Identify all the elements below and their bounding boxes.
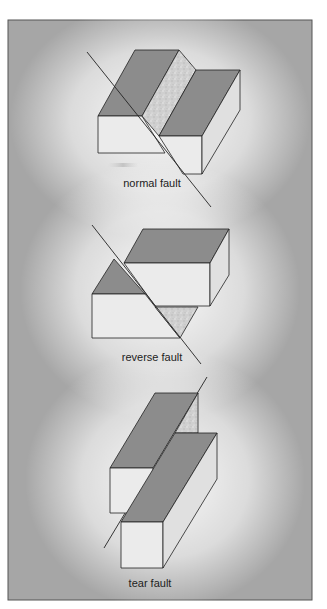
- block-shadow: [108, 163, 138, 167]
- reverse-fault-label: reverse fault: [122, 351, 183, 363]
- front-block-front-face: [121, 522, 163, 568]
- fault-types-diagram: normal fault reverse fault tear fault: [0, 0, 327, 609]
- normal-fault-label: normal fault: [123, 177, 180, 189]
- tear-fault-label: tear fault: [129, 577, 172, 589]
